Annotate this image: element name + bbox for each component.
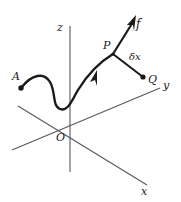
origin-label: O [56,132,65,143]
z-axis-label: z [57,22,63,33]
diagram-canvas [0,0,181,202]
curve-path [21,54,113,109]
x-axis-label: x [141,186,147,197]
trajectory-curve [21,54,113,109]
y-axis-label: y [163,80,169,91]
point-q-label: Q [148,74,157,85]
x-axis-line [18,106,147,185]
point-p-marker [111,52,114,55]
y-axis-line [12,88,160,150]
point-a-marker [18,85,23,90]
axes-group [12,26,160,185]
vector-f-shaft [113,22,133,54]
vector-dx-label: δx [129,52,141,62]
vector-field-diagram: z y x O A P Q f δx [0,0,181,202]
point-p-label: P [103,40,110,51]
point-q-marker [140,74,145,79]
vector-f-group [113,22,133,54]
vector-f-label: f [136,18,140,30]
point-a-label: A [12,71,20,82]
